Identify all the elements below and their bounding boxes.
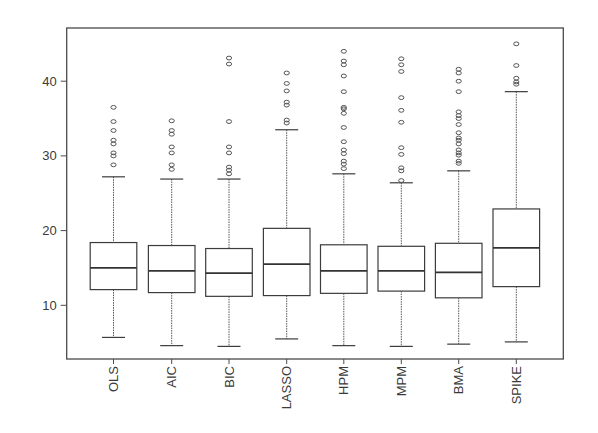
y-tick-label: 40 — [42, 74, 56, 89]
x-tick-label-mpm: MPM — [394, 366, 409, 396]
boxplot-chart: 10203040 OLSAICBICLASSOHPMMPMBMASPIKE — [0, 0, 598, 433]
outlier-point — [399, 63, 404, 67]
outlier-point — [456, 90, 461, 94]
outlier-point — [341, 111, 346, 115]
outlier-point — [111, 163, 116, 167]
x-tick-label-bma: BMA — [451, 366, 466, 395]
outlier-point — [284, 89, 289, 93]
outlier-point — [226, 151, 231, 155]
box-bma — [435, 67, 482, 344]
outlier-point — [169, 151, 174, 155]
outlier-point — [514, 42, 519, 46]
outlier-point — [399, 153, 404, 157]
outlier-point — [341, 140, 346, 144]
box-aic — [148, 119, 195, 346]
outlier-point — [456, 67, 461, 71]
outlier-point — [456, 110, 461, 114]
outlier-point — [169, 129, 174, 133]
outlier-point — [341, 152, 346, 156]
x-tick-label-spike: SPIKE — [509, 366, 524, 405]
outlier-point — [226, 62, 231, 66]
box-hpm — [321, 49, 368, 345]
box-spike — [493, 42, 540, 342]
iqr-box — [148, 246, 195, 293]
box-series — [90, 42, 539, 346]
outlier-point — [226, 172, 231, 176]
outlier-point — [341, 49, 346, 53]
x-tick-label-lasso: LASSO — [279, 366, 294, 409]
iqr-box — [435, 243, 482, 298]
outlier-point — [226, 120, 231, 124]
outlier-point — [169, 163, 174, 167]
outlier-point — [226, 56, 231, 60]
outlier-point — [399, 146, 404, 150]
iqr-box — [378, 246, 425, 291]
outlier-point — [514, 64, 519, 68]
box-ols — [90, 105, 137, 337]
plot-frame — [67, 28, 564, 359]
y-axis: 10203040 — [42, 74, 66, 313]
outlier-point — [341, 74, 346, 78]
iqr-box — [90, 243, 137, 290]
outlier-point — [456, 142, 461, 146]
outlier-point — [111, 120, 116, 124]
outlier-point — [399, 70, 404, 74]
outlier-point — [226, 145, 231, 149]
y-tick-label: 10 — [42, 298, 56, 313]
x-tick-label-ols: OLS — [106, 366, 121, 392]
y-tick-label: 30 — [42, 148, 56, 163]
y-tick-label: 20 — [42, 223, 56, 238]
outlier-point — [284, 71, 289, 75]
box-mpm — [378, 57, 425, 346]
outlier-point — [341, 59, 346, 63]
iqr-box — [321, 245, 368, 294]
outlier-point — [456, 79, 461, 83]
chart-canvas: 10203040 OLSAICBICLASSOHPMMPMBMASPIKE — [0, 0, 598, 433]
outlier-point — [111, 142, 116, 146]
outlier-point — [169, 119, 174, 123]
outlier-point — [399, 57, 404, 61]
outlier-point — [456, 131, 461, 135]
outlier-point — [399, 108, 404, 112]
x-tick-label-bic: BIC — [222, 366, 237, 388]
outlier-point — [169, 132, 174, 136]
outlier-point — [456, 71, 461, 75]
outlier-point — [111, 138, 116, 142]
x-tick-label-aic: AIC — [164, 366, 179, 388]
outlier-point — [399, 96, 404, 100]
outlier-point — [341, 148, 346, 152]
outlier-point — [399, 179, 404, 183]
x-axis: OLSAICBICLASSOHPMMPMBMASPIKE — [106, 359, 524, 409]
outlier-point — [111, 129, 116, 133]
box-bic — [206, 56, 253, 346]
outlier-point — [456, 123, 461, 127]
outlier-point — [284, 82, 289, 86]
x-tick-label-hpm: HPM — [336, 366, 351, 395]
outlier-point — [399, 120, 404, 124]
outlier-point — [341, 167, 346, 171]
outlier-point — [341, 126, 346, 130]
outlier-point — [169, 145, 174, 149]
box-lasso — [263, 71, 310, 339]
outlier-point — [341, 63, 346, 67]
outlier-point — [341, 90, 346, 94]
outlier-point — [169, 167, 174, 171]
outlier-point — [514, 76, 519, 80]
outlier-point — [111, 105, 116, 109]
iqr-box — [263, 228, 310, 295]
